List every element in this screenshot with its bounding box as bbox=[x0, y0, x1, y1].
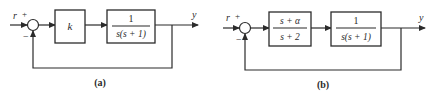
caption-b: (b) bbox=[317, 79, 329, 91]
input-label-a: r bbox=[13, 10, 17, 21]
plant-b-numerator: 1 bbox=[354, 15, 359, 26]
diagram-b: r + − s + α s + 2 1 s(s + 1) y (b) bbox=[223, 11, 425, 91]
summing-junction-a bbox=[28, 20, 39, 31]
summing-junction-b bbox=[240, 23, 251, 34]
plus-sign-a: + bbox=[22, 9, 27, 19]
plant-a-numerator: 1 bbox=[129, 13, 134, 24]
plant-a-denominator: s(s + 1) bbox=[116, 29, 146, 40]
plus-sign-b: + bbox=[235, 11, 240, 21]
plant-b-denominator: s(s + 1) bbox=[341, 32, 371, 43]
output-label-b: y bbox=[418, 12, 424, 23]
block-diagrams: r + − k 1 s(s + 1) y (a) r + − bbox=[0, 0, 435, 93]
compensator-denominator: s + 2 bbox=[280, 32, 300, 42]
diagram-a: r + − k 1 s(s + 1) y (a) bbox=[10, 9, 198, 89]
output-label-a: y bbox=[191, 9, 197, 20]
minus-sign-b: − bbox=[236, 34, 242, 45]
minus-sign-a: − bbox=[23, 31, 29, 42]
input-label-b: r bbox=[226, 12, 230, 23]
compensator-numerator: s + α bbox=[280, 16, 301, 26]
caption-a: (a) bbox=[94, 77, 106, 89]
